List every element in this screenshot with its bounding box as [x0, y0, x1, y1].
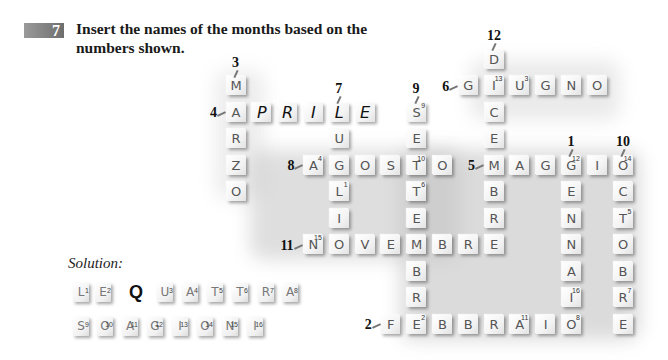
cell-letter: V	[361, 237, 370, 252]
clue-number: 8	[287, 159, 294, 173]
cell-letter: R	[618, 290, 627, 305]
crossword-cell: O	[356, 156, 375, 175]
crossword-cell: S	[381, 156, 400, 175]
cell-letter: B	[438, 317, 447, 332]
cell-letter: O	[592, 78, 602, 93]
cell-letter: G	[334, 158, 344, 173]
cell-number: 7	[628, 286, 632, 295]
crossword-cell: I13	[485, 76, 504, 95]
crossword-cell: B	[485, 182, 504, 201]
cell-letter: I	[544, 317, 548, 332]
crossword-cell: B	[614, 262, 633, 281]
crossword-cell: E	[485, 235, 504, 254]
cell-letter: M	[411, 237, 422, 252]
cell-letter: R	[412, 290, 421, 305]
crossword-cell: G12	[562, 156, 581, 175]
cell-letter: R	[489, 317, 498, 332]
crossword-cell: Z	[227, 156, 246, 175]
crossword-cell: E	[356, 103, 375, 122]
crossword-cell: L1	[330, 182, 349, 201]
crossword-cell: L	[330, 103, 349, 122]
solution-letter: R	[262, 285, 270, 299]
crossword-cell: G	[459, 76, 478, 95]
solution-number: 11	[131, 315, 138, 334]
cell-letter: F	[387, 317, 394, 332]
cell-letter: E	[412, 131, 420, 146]
cell-letter: Z	[232, 158, 241, 173]
crossword-cell: C	[614, 182, 633, 201]
clue-number: 6	[442, 80, 449, 94]
exercise-number-badge: 7	[24, 23, 64, 38]
cell-letter: E	[360, 103, 370, 122]
cell-letter: C	[618, 184, 627, 199]
solution-number: 10	[105, 315, 113, 334]
crossword-cell: O	[433, 156, 452, 175]
crossword-cell: A	[510, 156, 529, 175]
cell-letter: O	[437, 158, 447, 173]
crossword-cell: S9	[407, 103, 426, 122]
crossword-cell: E	[407, 129, 426, 148]
crossword-cell: R	[278, 103, 297, 122]
crossword-cell: I16	[562, 288, 581, 307]
crossword-cell: U3	[510, 76, 529, 95]
crossword-cell: P	[252, 103, 271, 122]
solution-letter: Q	[129, 282, 143, 302]
cell-letter: R	[489, 211, 498, 226]
cell-number: 1	[344, 180, 348, 189]
crossword-cell: I	[304, 103, 323, 122]
cell-number: 10	[417, 154, 425, 163]
cell-letter: G	[541, 158, 551, 173]
crossword-cell: G	[330, 156, 349, 175]
crossword-cell: R	[485, 209, 504, 228]
cell-letter: O	[618, 237, 628, 252]
solution-letter: T	[236, 285, 243, 299]
instruction-line-2: numbers shown.	[76, 38, 376, 57]
solution-number: 8	[294, 281, 298, 300]
cell-letter: O	[566, 317, 576, 332]
solution-tile: T6	[232, 283, 248, 302]
cell-letter: C	[489, 105, 498, 120]
solution-letter: E	[99, 285, 107, 299]
cell-letter: A	[515, 158, 524, 173]
solution-tile: T5	[207, 283, 223, 302]
solution-number: 7	[270, 281, 274, 300]
solution-label: Solution:	[68, 255, 123, 272]
crossword-cell: A4	[304, 156, 323, 175]
crossword-cell: N	[562, 209, 581, 228]
solution-tile: E2	[95, 283, 111, 302]
clue-number: 1	[567, 135, 574, 149]
clue-number: 2	[365, 318, 372, 332]
cell-letter: O	[334, 237, 344, 252]
solution-tile: O10	[97, 317, 113, 336]
clue-number: 11	[280, 239, 293, 253]
solution-number: 5	[219, 281, 223, 300]
crossword-cell: B	[459, 315, 478, 334]
solution-letter: U	[161, 285, 170, 299]
crossword-cell: N	[562, 235, 581, 254]
crossword-cell: I	[330, 209, 349, 228]
instruction-line-1: Insert the names of the months based on …	[76, 19, 376, 38]
solution-tile: O14	[197, 317, 213, 336]
solution-tile: R7	[258, 283, 274, 302]
crossword-cell: M	[485, 156, 504, 175]
clue-pointer	[372, 323, 381, 329]
crossword-cell: A	[227, 103, 246, 122]
crossword-cell: E2	[407, 315, 426, 334]
solution-tile: I13	[172, 317, 188, 336]
crossword-cell: O	[614, 235, 633, 254]
cell-number: 8	[576, 313, 580, 322]
cell-letter: N	[567, 237, 577, 252]
solution-number: 4	[194, 281, 198, 300]
cell-number: 14	[624, 154, 632, 163]
crossword-cell: O	[588, 76, 607, 95]
solution-tile: U3	[157, 283, 173, 302]
clue-number: 7	[335, 82, 342, 96]
solution-tile: G12	[147, 317, 163, 336]
clue-number: 3	[232, 56, 239, 70]
solution-tile: N15	[222, 317, 238, 336]
cell-letter: U	[334, 131, 344, 146]
crossword-cell: I	[588, 156, 607, 175]
solution-number: 16	[255, 315, 263, 334]
clue-number: 4	[210, 106, 217, 120]
crossword-cell: I	[536, 315, 555, 334]
